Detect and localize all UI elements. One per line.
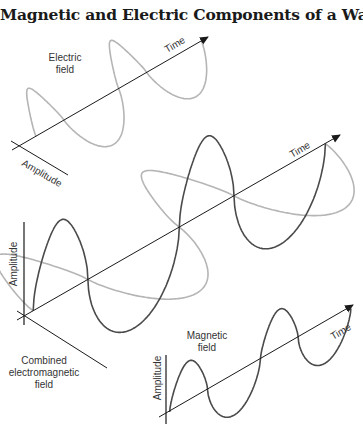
combined-time-axis-label: Time xyxy=(288,139,313,160)
combined-field-label-line2: electromagnetic xyxy=(9,367,80,378)
magnetic-field-panel: Time Amplitude Magnetic field xyxy=(152,305,353,424)
magnetic-field-label-line1: Magnetic xyxy=(187,330,228,341)
combined-electric-wave xyxy=(0,144,354,311)
magnetic-field-label-line2: field xyxy=(198,342,216,353)
combined-field-label-line1: Combined xyxy=(21,355,67,366)
combined-magnetic-wave xyxy=(33,136,325,333)
magnetic-amplitude-axis-label: Amplitude xyxy=(152,355,163,400)
combined-amplitude-axis-label: Amplitude xyxy=(8,241,19,286)
combined-time-axis xyxy=(17,135,340,320)
electric-field-label-line2: field xyxy=(56,64,74,75)
electric-field-label-line1: Electric xyxy=(49,52,82,63)
combined-field-label-line3: field xyxy=(35,379,53,390)
magnetic-wave xyxy=(170,309,351,418)
magnetic-time-axis-label: Time xyxy=(329,321,354,342)
diagram-canvas: Time Amplitude Electric field Time Ampli… xyxy=(0,0,363,435)
electric-amplitude-axis-label: Amplitude xyxy=(20,157,64,189)
electric-field-panel: Time Amplitude Electric field xyxy=(11,34,208,189)
